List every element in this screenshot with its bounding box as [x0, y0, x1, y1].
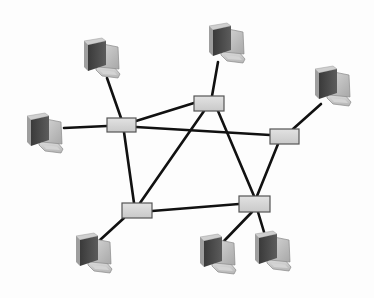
network-link — [293, 104, 321, 129]
switch-node — [270, 129, 299, 144]
network-link — [152, 204, 239, 211]
network-link — [136, 127, 270, 135]
switch-node — [107, 118, 136, 132]
network-link — [107, 78, 121, 118]
links-layer — [64, 62, 321, 241]
switch-node — [239, 196, 270, 212]
network-link — [218, 111, 254, 196]
network-link — [136, 103, 194, 121]
computer-icon — [27, 113, 63, 153]
network-link — [224, 212, 252, 241]
network-link — [258, 212, 264, 232]
network-link — [212, 62, 218, 96]
network-diagram — [0, 0, 374, 298]
computer-icon — [84, 38, 120, 78]
switch-node — [122, 203, 152, 218]
computer-icon — [255, 231, 291, 271]
network-link — [257, 144, 278, 196]
computer-icon — [209, 23, 245, 63]
computer-icon — [200, 234, 236, 274]
computer-icon — [315, 66, 351, 106]
switch-node — [194, 96, 224, 111]
computers-layer — [27, 23, 351, 274]
network-link — [140, 111, 204, 203]
network-link — [64, 126, 107, 128]
computer-icon — [76, 233, 112, 273]
diagram-canvas — [0, 0, 374, 298]
network-link — [100, 218, 124, 240]
network-link — [124, 132, 134, 203]
